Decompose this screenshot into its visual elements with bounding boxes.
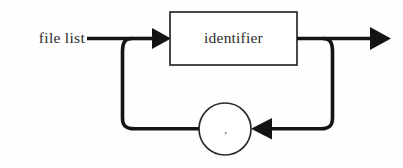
identifier-node-label: identifier (204, 29, 263, 46)
arrow-loopback-icon (251, 118, 272, 140)
arrow-exit-icon (370, 27, 391, 50)
railroad-diagram-svg: identifier , file list (0, 0, 403, 168)
arrow-into-identifier-icon (152, 28, 171, 49)
comma-separator-label: , (224, 123, 227, 135)
railroad-diagram-canvas: identifier , file list (0, 0, 403, 168)
entry-label: file list (39, 29, 86, 46)
